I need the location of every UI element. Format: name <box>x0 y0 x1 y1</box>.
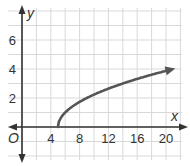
y-tick-label: 2 <box>9 91 16 106</box>
x-tick-label: 8 <box>76 131 83 146</box>
y-tick-label: 6 <box>9 33 16 48</box>
x-tick-label: 20 <box>159 131 173 146</box>
graph: 48121620246 x y O <box>0 0 190 166</box>
x-tick-label: 12 <box>101 131 115 146</box>
y-axis-arrow-down-icon <box>19 154 26 163</box>
origin-label: O <box>8 130 19 146</box>
x-tick-label: 16 <box>130 131 144 146</box>
y-axis-label: y <box>26 5 35 21</box>
tick-labels: 48121620246 <box>9 33 173 146</box>
x-axis-arrow-right-icon <box>179 124 188 131</box>
y-axis-arrow-up-icon <box>19 5 26 14</box>
grid-lines <box>8 8 182 160</box>
x-tick-label: 4 <box>47 131 54 146</box>
x-axis-label: x <box>170 108 179 124</box>
y-tick-label: 4 <box>9 62 16 77</box>
